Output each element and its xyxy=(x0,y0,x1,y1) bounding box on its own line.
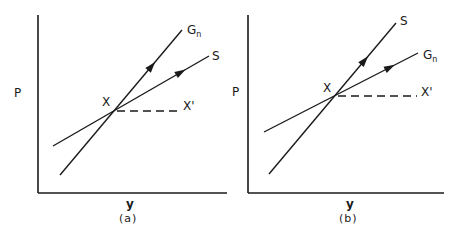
x-axis-label: y xyxy=(346,197,354,211)
point-x-label: X xyxy=(102,95,110,109)
panel-a: P y (a) X X' Gn S xyxy=(14,15,227,225)
line-gn-label: Gn xyxy=(187,23,201,39)
line-s-label: S xyxy=(400,14,408,28)
point-xprime-label: X' xyxy=(183,99,195,113)
y-axis-label: P xyxy=(14,86,21,100)
diagram-canvas: P y (a) X X' Gn S P y (b) X X' S Gn xyxy=(0,0,463,241)
arrowhead-icon xyxy=(383,65,394,73)
point-xprime-label: X' xyxy=(421,85,433,99)
panel-caption: (b) xyxy=(339,212,358,225)
line-gn-label: Gn xyxy=(423,48,437,64)
figure: P y (a) X X' Gn S P y (b) X X' S Gn xyxy=(0,0,463,241)
line-gn xyxy=(60,30,182,175)
point-x-label: X xyxy=(323,81,331,95)
line-s-label: S xyxy=(212,49,220,63)
y-axis-label: P xyxy=(232,85,239,99)
panel-b: P y (b) X X' S Gn xyxy=(232,14,444,225)
arrowhead-icon xyxy=(174,70,185,79)
panel-caption: (a) xyxy=(119,212,137,225)
line-s xyxy=(269,23,396,174)
x-axis-label: y xyxy=(126,197,134,211)
